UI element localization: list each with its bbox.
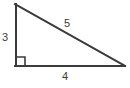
label-horizontal-leg: 4 (62, 71, 68, 82)
label-vertical-leg: 3 (2, 32, 8, 43)
label-hypotenuse: 5 (64, 18, 70, 29)
right-triangle-diagram: 3 4 5 (0, 0, 130, 88)
right-angle-marker-icon (16, 57, 25, 66)
triangle-side-hypotenuse (15, 4, 125, 66)
